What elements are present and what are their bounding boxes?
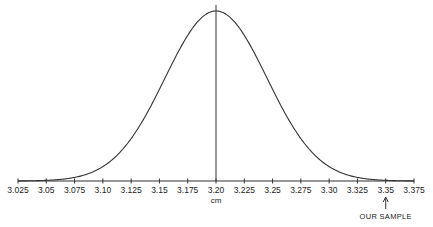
x-tick-label: 3.275	[290, 185, 312, 195]
x-tick-label: 3.225	[234, 185, 256, 195]
x-tick-label: 3.125	[121, 185, 143, 195]
x-tick-label: 3.20	[208, 185, 225, 195]
arrow-up-icon	[383, 197, 388, 209]
x-tick-label: 3.175	[177, 185, 199, 195]
x-tick-label: 3.05	[38, 185, 55, 195]
x-tick-label: 3.35	[377, 185, 394, 195]
x-tick-label: 3.25	[264, 185, 281, 195]
normal-distribution-chart: 3.0253.053.0753.103.1253.153.1753.203.22…	[0, 0, 433, 227]
x-axis-unit-label: cm	[211, 196, 222, 205]
x-tick-label: 3.075	[64, 185, 86, 195]
x-tick-label: 3.30	[321, 185, 338, 195]
x-tick-label: 3.10	[95, 185, 112, 195]
our-sample-annotation: OUR SAMPLE	[360, 212, 412, 221]
x-tick-label: 3.375	[403, 185, 425, 195]
x-tick-label: 3.15	[151, 185, 168, 195]
x-tick-label: 3.025	[7, 185, 29, 195]
x-tick-label: 3.325	[347, 185, 369, 195]
